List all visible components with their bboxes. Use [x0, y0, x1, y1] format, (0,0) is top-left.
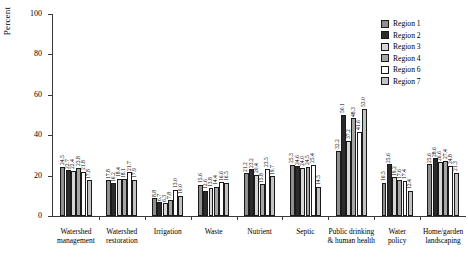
- bar: [76, 168, 81, 216]
- bar: [382, 183, 387, 216]
- bar-value-label: 20.4: [253, 164, 259, 174]
- bar-group: 17.816.218.418.121.717.9: [99, 14, 145, 216]
- bar: [443, 161, 448, 216]
- y-tick-label: 60: [20, 91, 42, 99]
- bar-value-label: 17.8: [85, 169, 91, 179]
- bar-value-label: 50.1: [339, 104, 345, 114]
- bar: [249, 169, 254, 216]
- x-axis-separator: [237, 216, 238, 220]
- legend-label: Region 2: [393, 31, 421, 40]
- legend-item[interactable]: Region 2: [381, 30, 421, 42]
- bar: [295, 166, 300, 216]
- legend-label: Region 1: [393, 19, 421, 28]
- bar: [127, 172, 132, 216]
- legend-label: Region 3: [393, 42, 421, 51]
- legend: Region 1Region 2Region 3Region 4Region 6…: [381, 18, 421, 87]
- bar: [163, 203, 168, 216]
- bar: [300, 168, 305, 216]
- x-category-label-line: restoration: [91, 237, 153, 246]
- bar: [306, 167, 311, 216]
- bar: [336, 151, 341, 216]
- bar-group: 25.324.624.024.525.414.5: [282, 14, 328, 216]
- bar: [397, 180, 402, 216]
- bar-value-label: 25.6: [385, 153, 391, 163]
- legend-swatch: [381, 20, 389, 28]
- bar-value-label: 10.0: [177, 185, 183, 195]
- bar-value-label: 16.5: [223, 171, 229, 181]
- bar: [392, 177, 397, 216]
- legend-swatch: [381, 66, 389, 74]
- legend-label: Region 6: [393, 65, 421, 74]
- bar-group: 24.522.722.423.821.817.8: [53, 14, 99, 216]
- bar: [71, 171, 76, 216]
- bar-value-label: 17.4: [401, 170, 407, 180]
- bar: [66, 170, 71, 216]
- bar: [122, 179, 127, 216]
- x-axis-separator: [420, 216, 421, 220]
- legend-item[interactable]: Region 3: [381, 41, 421, 53]
- bar: [316, 187, 321, 216]
- bar: [117, 179, 122, 216]
- bar: [427, 164, 432, 216]
- bar: [357, 132, 362, 216]
- x-axis-separator: [99, 216, 100, 220]
- bar-value-label: 32.2: [334, 140, 340, 150]
- bar: [351, 118, 356, 216]
- bar-group: 25.628.626.627.424.821.3: [420, 14, 466, 216]
- bar: [106, 180, 111, 216]
- bar: [265, 169, 270, 216]
- bar: [433, 158, 438, 216]
- grouped-bar-chart: Percent 020406080100 24.522.722.423.821.…: [0, 0, 468, 267]
- bar: [203, 191, 208, 216]
- bar: [178, 196, 183, 216]
- bar-value-label: 41.6: [355, 121, 361, 131]
- bar: [438, 162, 443, 216]
- y-tick-label: 20: [20, 172, 42, 180]
- y-tick-mark: [48, 216, 53, 217]
- legend-label: Region 4: [393, 54, 421, 63]
- bar-group: 15.612.613.814.416.616.5: [191, 14, 237, 216]
- bar: [219, 182, 224, 216]
- x-axis-separator: [145, 216, 146, 220]
- bar-value-label: 14.5: [315, 175, 321, 185]
- bar: [157, 202, 162, 216]
- x-axis-separator: [191, 216, 192, 220]
- legend-swatch: [381, 43, 389, 51]
- y-tick-label: 100: [20, 10, 42, 18]
- bar-value-label: 15.8: [258, 173, 264, 183]
- bar: [244, 173, 249, 216]
- bar: [260, 184, 265, 216]
- y-axis-title: Percent: [2, 0, 12, 66]
- bar: [346, 141, 351, 216]
- bar: [448, 166, 453, 216]
- bar-value-label: 37.2: [345, 130, 351, 140]
- bar-value-label: 17.9: [131, 169, 137, 179]
- bar: [60, 167, 65, 216]
- bar: [362, 109, 367, 216]
- x-axis-separator: [328, 216, 329, 220]
- bar: [454, 173, 459, 216]
- bar-value-label: 7.8: [166, 192, 172, 199]
- x-axis-separator: [282, 216, 283, 220]
- bar-value-label: 12.4: [406, 180, 412, 190]
- bar: [87, 180, 92, 216]
- legend-item[interactable]: Region 4: [381, 53, 421, 65]
- x-axis-separator: [374, 216, 375, 220]
- bar-value-label: 19.7: [269, 165, 275, 175]
- bar: [198, 185, 203, 217]
- legend-item[interactable]: Region 7: [381, 76, 421, 88]
- bar-group: 32.250.137.248.341.653.0: [328, 14, 374, 216]
- y-tick-label: 40: [20, 131, 42, 139]
- bar-value-label: 21.3: [452, 162, 458, 172]
- legend-swatch: [381, 54, 389, 62]
- bar-value-label: 25.4: [309, 153, 315, 163]
- bar: [209, 188, 214, 216]
- y-tick-label: 0: [20, 212, 42, 220]
- bar: [168, 200, 173, 216]
- legend-item[interactable]: Region 1: [381, 18, 421, 30]
- legend-item[interactable]: Region 6: [381, 64, 421, 76]
- x-category-label: Home/gardenlandscaping: [412, 228, 468, 245]
- legend-swatch: [381, 77, 389, 85]
- bar-value-label: 48.3: [350, 107, 356, 117]
- bar-group: 21.223.220.415.823.519.7: [237, 14, 283, 216]
